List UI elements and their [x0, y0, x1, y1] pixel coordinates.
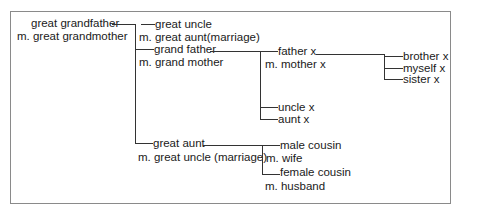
- node-great-uncle: great uncle: [155, 18, 212, 31]
- node-great-uncle-marriage: m. great uncle (marriage): [138, 151, 267, 164]
- node-great-aunt: great aunt: [153, 137, 205, 150]
- connector-line: [316, 54, 384, 55]
- node-sister: sister x: [403, 73, 439, 86]
- connector-line: [141, 24, 155, 25]
- connector-line: [135, 49, 154, 50]
- node-grand-father: grand father: [154, 43, 216, 56]
- node-great-grandmother: m. great grandmother: [17, 30, 128, 43]
- node-grand-mother: m. grand mother: [139, 56, 223, 69]
- node-female-cousin: female cousin: [280, 166, 351, 179]
- connector-line: [112, 24, 136, 25]
- connector-line: [203, 145, 263, 146]
- node-male-cousin: male cousin: [280, 139, 341, 152]
- trunk-line: [135, 24, 136, 144]
- node-great-grandfather: great grandfather: [31, 17, 119, 30]
- node-aunt: aunt x: [278, 113, 309, 126]
- connector-line: [260, 119, 278, 120]
- connector-line: [384, 79, 403, 80]
- node-father: father x: [278, 45, 316, 58]
- node-husband: m. husband: [265, 180, 325, 193]
- branch-line: [262, 145, 263, 175]
- branch-line: [260, 51, 261, 120]
- connector-line: [210, 51, 261, 52]
- connector-line: [260, 107, 278, 108]
- connector-line: [384, 68, 403, 69]
- node-mother: m. mother x: [265, 58, 326, 71]
- node-wife: m. wife: [266, 152, 302, 165]
- connector-line: [262, 174, 280, 175]
- branch-line: [384, 54, 385, 80]
- connector-line: [262, 145, 280, 146]
- connector-line: [384, 56, 403, 57]
- connector-line: [135, 143, 153, 144]
- connector-line: [260, 51, 278, 52]
